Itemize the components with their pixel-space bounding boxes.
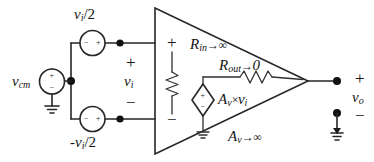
label-vo-plus: +	[355, 70, 365, 87]
label-vi-plus: +	[126, 54, 136, 71]
label-vi-half-bottom: -vi/2	[70, 134, 96, 151]
label-vi-half-top-tail: /2	[83, 6, 95, 22]
label-vo-sub: o	[359, 95, 364, 106]
label-av-times-vi: Av×vi	[218, 91, 247, 108]
label-rout-base: R	[219, 57, 228, 73]
label-av-limit-value: ∞	[253, 130, 261, 144]
source-bottom-plus-sign: +	[96, 115, 101, 123]
label-av-limit-arrow: →	[242, 130, 254, 144]
label-vo-minus: −	[355, 107, 365, 124]
label-vi-half-top: vi/2	[74, 6, 95, 23]
label-av-base: A	[218, 91, 227, 107]
label-vo: vo	[352, 89, 364, 106]
source-vcm-minus-sign: −	[50, 84, 55, 92]
circuit-svg	[0, 0, 374, 162]
source-vcm-plus-sign: +	[50, 72, 55, 80]
label-vo-base: v	[352, 89, 359, 105]
label-rin-base: R	[190, 36, 199, 52]
dependent-source-plus-sign: +	[201, 92, 206, 100]
label-vi-sub: i	[131, 79, 134, 90]
label-rin-value: ∞	[218, 38, 226, 52]
opamp-input-plus-sign: +	[167, 34, 177, 51]
label-vcm-sub: cm	[19, 79, 31, 90]
node-dot-bottom	[116, 115, 123, 122]
label-rin: Rin→∞	[190, 36, 227, 53]
source-top-minus-sign: −	[84, 39, 89, 47]
label-vi-half-bottom-tail: /2	[84, 134, 96, 150]
vcm-branch	[40, 69, 72, 106]
node-dot-top	[116, 39, 123, 46]
label-av-operand-sub: i	[245, 97, 248, 108]
label-rout-arrow: →	[241, 59, 253, 73]
label-vcm: vcm	[12, 73, 30, 90]
label-rin-sub: in	[199, 42, 207, 53]
opamp-input-minus-sign: −	[167, 111, 177, 128]
ground-icon-output	[331, 113, 343, 140]
label-av-operand-base: v	[238, 91, 245, 107]
label-rout-value: 0	[252, 57, 260, 73]
label-vi-base: v	[124, 73, 131, 89]
label-rout-sub: out	[228, 63, 241, 74]
dependent-source-minus-sign: −	[201, 103, 206, 111]
label-rout: Rout→0	[219, 57, 260, 74]
circuit-diagram-figure: vi/2 -vi/2 vcm + − + − + − + vi − + − Ri…	[0, 0, 374, 162]
source-top-plus-sign: +	[96, 39, 101, 47]
label-vcm-base: v	[12, 73, 19, 89]
label-av-limit: Av→∞	[228, 128, 261, 145]
label-rin-arrow: →	[207, 38, 219, 52]
label-vi-half-top-base: v	[74, 6, 81, 22]
label-vi-half-bottom-base: v	[75, 134, 82, 150]
ground-icon-vcm	[45, 106, 59, 113]
label-vi: vi	[124, 73, 133, 90]
label-av-limit-base: A	[228, 128, 237, 144]
node-dot-output-plus	[333, 77, 341, 85]
label-vi-minus: −	[126, 94, 136, 111]
source-bottom-minus-sign: −	[84, 115, 89, 123]
